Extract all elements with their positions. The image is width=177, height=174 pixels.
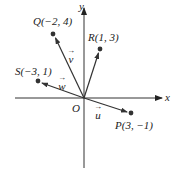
point-q-dot <box>51 32 56 37</box>
point-q-label: Q(−2, 4) <box>33 16 72 27</box>
vector-diagram <box>0 0 177 174</box>
point-s-label: S(−3, 1) <box>15 66 52 77</box>
vector-u <box>84 98 127 112</box>
origin-label: O <box>72 103 80 114</box>
point-p-dot <box>129 111 134 116</box>
point-r-label: R(1, 3) <box>88 32 119 43</box>
x-axis-label: x <box>165 92 170 103</box>
point-r-dot <box>98 47 103 52</box>
vector-u-label: → u <box>94 104 102 121</box>
vector-r <box>84 53 99 98</box>
point-p-label: P(3, −1) <box>115 120 153 131</box>
vector-v-label: → v <box>67 48 75 65</box>
vector-w-label: → w <box>58 75 66 92</box>
point-s-dot <box>36 79 41 84</box>
y-axis-label: y <box>79 1 84 12</box>
